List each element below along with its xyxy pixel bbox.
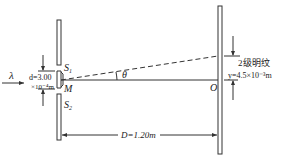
double-slit-diagram: λ d=3.00 ×10⁻⁴m S1 S2 M θ O 2级明纹 y=4.5×1… bbox=[0, 0, 281, 165]
barrier-middle bbox=[57, 71, 61, 88]
screen bbox=[218, 6, 222, 154]
distance-label: D=1.20m bbox=[120, 130, 156, 140]
origin-label: O bbox=[210, 82, 217, 93]
slit-spacing-unit: ×10⁻⁴m bbox=[31, 83, 54, 91]
arrowhead-icon bbox=[212, 133, 217, 137]
barrier-top bbox=[57, 20, 61, 65]
barrier-bottom bbox=[57, 94, 61, 140]
fringe-label: 2级明纹 bbox=[238, 57, 270, 68]
slit-spacing-label: d=3.00 bbox=[29, 73, 52, 82]
fringe-position-label: y=4.5×10⁻³m bbox=[228, 71, 272, 80]
ray-to-fringe bbox=[61, 56, 218, 80]
midpoint-label: M bbox=[63, 83, 73, 94]
arrowhead-icon bbox=[231, 51, 235, 56]
arrowhead-icon bbox=[231, 80, 235, 85]
arrowhead-icon bbox=[62, 133, 67, 137]
wavelength-label: λ bbox=[8, 69, 14, 81]
slit1-label: S1 bbox=[64, 62, 72, 74]
arrowhead-icon bbox=[19, 81, 24, 85]
arrowhead-icon bbox=[41, 66, 45, 71]
slit2-label: S2 bbox=[64, 99, 72, 111]
angle-label: θ bbox=[122, 69, 127, 80]
angle-arc bbox=[116, 72, 117, 80]
